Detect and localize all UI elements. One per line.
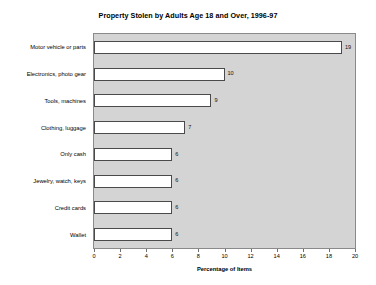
x-tick-mark xyxy=(225,249,226,252)
x-tick-mark xyxy=(172,249,173,252)
y-axis-label: Jewelry, watch, keys xyxy=(0,168,89,195)
bar-row: 19 xyxy=(94,34,355,61)
x-tick-mark xyxy=(251,249,252,252)
bar-row: 7 xyxy=(94,114,355,141)
bar-value-label: 7 xyxy=(188,125,191,131)
chart-figure: Property Stolen by Adults Age 18 and Ove… xyxy=(0,0,376,285)
x-tick-label: 6 xyxy=(171,253,174,259)
bar xyxy=(94,41,342,54)
plot-area: 1910976666 xyxy=(93,33,356,249)
y-axis-label: Clothing, luggage xyxy=(0,114,89,141)
x-tick-mark xyxy=(355,249,356,252)
x-tick-label: 18 xyxy=(326,253,332,259)
x-tick-mark xyxy=(146,249,147,252)
bar-value-label: 6 xyxy=(175,232,178,238)
x-tick-label: 10 xyxy=(221,253,227,259)
x-tick-label: 16 xyxy=(300,253,306,259)
bar-row: 9 xyxy=(94,88,355,115)
y-axis-category-labels: Motor vehicle or partsElectronics, photo… xyxy=(0,33,89,249)
x-tick-mark xyxy=(120,249,121,252)
bar xyxy=(94,121,185,134)
x-tick-label: 0 xyxy=(92,253,95,259)
y-axis-label: Credit cards xyxy=(0,195,89,222)
y-axis-label: Electronics, photo gear xyxy=(0,61,89,88)
x-tick-label: 20 xyxy=(352,253,358,259)
y-axis-label: Wallet xyxy=(0,221,89,248)
bar-value-label: 9 xyxy=(214,98,217,104)
chart-title: Property Stolen by Adults Age 18 and Ove… xyxy=(0,11,376,20)
bar-value-label: 6 xyxy=(175,178,178,184)
bar-row: 6 xyxy=(94,221,355,248)
bar-row: 6 xyxy=(94,168,355,195)
bar xyxy=(94,68,225,81)
y-axis-label: Motor vehicle or parts xyxy=(0,34,89,61)
bar-value-label: 6 xyxy=(175,205,178,211)
x-axis-title: Percentage of Items xyxy=(93,266,356,272)
x-tick-label: 14 xyxy=(274,253,280,259)
bar xyxy=(94,148,172,161)
y-axis-label: Tools, machines xyxy=(0,88,89,115)
y-axis-label: Only cash xyxy=(0,141,89,168)
x-tick-label: 8 xyxy=(197,253,200,259)
x-tick-label: 4 xyxy=(145,253,148,259)
x-tick-mark xyxy=(198,249,199,252)
bar-row: 6 xyxy=(94,141,355,168)
bar-row: 6 xyxy=(94,195,355,222)
x-tick-mark xyxy=(303,249,304,252)
bar-value-label: 10 xyxy=(228,71,234,77)
x-tick-mark xyxy=(277,249,278,252)
bar xyxy=(94,228,172,241)
bar-value-label: 19 xyxy=(345,45,351,51)
x-tick-mark xyxy=(329,249,330,252)
x-tick-label: 2 xyxy=(119,253,122,259)
bar-value-label: 6 xyxy=(175,152,178,158)
x-tick-mark xyxy=(94,249,95,252)
bar-row: 10 xyxy=(94,61,355,88)
bars-layer: 1910976666 xyxy=(94,34,355,248)
bar xyxy=(94,175,172,188)
x-tick-label: 12 xyxy=(247,253,253,259)
x-axis-ticks: 02468101214161820 xyxy=(93,249,356,253)
bar xyxy=(94,201,172,214)
bar xyxy=(94,94,211,107)
